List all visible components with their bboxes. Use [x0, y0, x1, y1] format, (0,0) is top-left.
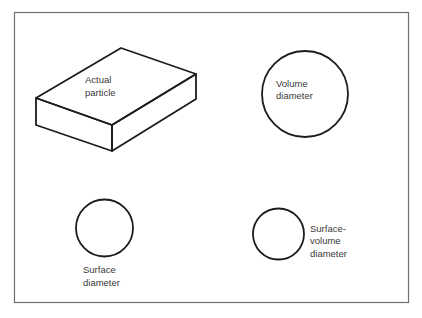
label-line: Volume — [276, 78, 308, 89]
label-line: diameter — [83, 277, 120, 288]
surface-volume-diameter-circle — [253, 209, 304, 260]
surface-diameter-circle — [76, 200, 133, 257]
box-front-face — [36, 98, 112, 151]
label-line: Surface- — [310, 223, 346, 234]
label-line: particle — [85, 87, 116, 98]
label-line: Actual — [85, 74, 111, 85]
particle-diameter-diagram: Actual particle Volume diameter Surface … — [0, 0, 422, 318]
label-line: diameter — [276, 90, 313, 101]
label-line: Surface — [83, 264, 116, 275]
label-line: diameter — [310, 248, 347, 259]
label-line: volume — [310, 235, 341, 246]
volume-diameter-label: Volume diameter — [276, 78, 313, 101]
surface-diameter-label: Surface diameter — [83, 264, 120, 288]
box-side-face — [112, 74, 196, 151]
diagram-frame — [15, 13, 409, 303]
actual-particle-box — [36, 48, 196, 151]
actual-particle-label: Actual particle — [85, 74, 116, 98]
surface-volume-diameter-label: Surface- volume diameter — [310, 223, 349, 259]
